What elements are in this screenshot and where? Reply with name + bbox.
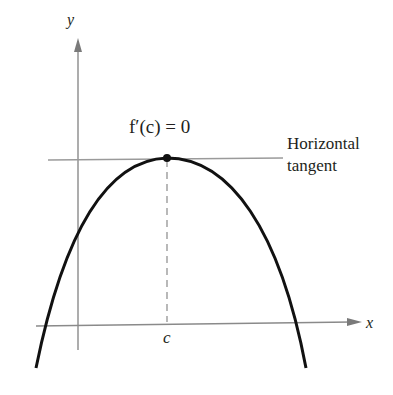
tangent-label-line2: tangent [287, 156, 337, 175]
y-axis-arrow-icon [74, 38, 82, 52]
y-axis-label: y [65, 11, 75, 29]
x-axis [36, 322, 352, 326]
x-axis-arrow-icon [347, 318, 362, 326]
x-axis-label: x [365, 314, 373, 331]
max-point [163, 154, 171, 162]
c-label: c [163, 328, 171, 347]
function-curve [36, 158, 306, 368]
derivative-label: f′(c) = 0 [129, 116, 190, 138]
tangent-label-line1: Horizontal [287, 134, 360, 153]
diagram-canvas: y x f′(c) = 0 Horizontal tangent c [0, 0, 393, 395]
